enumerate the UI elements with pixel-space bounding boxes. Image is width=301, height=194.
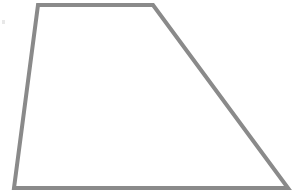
canvas-background: [0, 0, 301, 194]
trapezoid-drawing: Line drawing of a trapezoid (quadrilater…: [0, 0, 301, 194]
scan-speck-artifact: [2, 20, 5, 24]
figure-canvas: Line drawing of a trapezoid (quadrilater…: [0, 0, 301, 194]
